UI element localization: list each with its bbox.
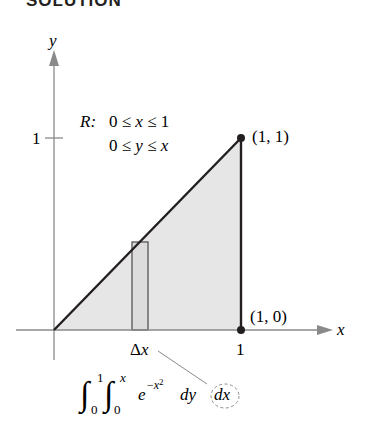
outer-differential: dx	[214, 385, 231, 404]
outer-integral-sign: ∫	[78, 375, 92, 415]
representative-rectangle	[132, 242, 148, 330]
x-axis-arrow-icon	[317, 325, 333, 335]
x-tick-label: 1	[236, 340, 245, 359]
leader-line	[158, 351, 207, 384]
point-label-1-0: (1, 0)	[250, 307, 287, 326]
inner-differential: dy	[180, 385, 197, 404]
region-graph: y x 1 1 R: 0 ≤ x ≤ 1 0 ≤ y ≤ x (1, 1) (1…	[0, 0, 367, 429]
integral-expression: ∫ 1 0 ∫ x 0 e −x2 dy dx	[78, 370, 231, 417]
point-label-1-1: (1, 1)	[252, 127, 289, 146]
outer-lower-limit: 0	[91, 402, 98, 417]
integrand-base: e	[138, 385, 146, 404]
y-axis-arrow-icon	[49, 50, 59, 66]
region-label: R:	[79, 112, 96, 131]
y-tick-label: 1	[32, 129, 41, 148]
inner-lower-limit: 0	[114, 402, 121, 417]
x-axis-label: x	[336, 320, 345, 339]
inner-upper-limit: x	[119, 370, 126, 385]
y-axis-label: y	[47, 31, 57, 50]
integrand-exponent: −x2	[147, 377, 164, 392]
point-1-0	[237, 326, 245, 334]
region-bound-y: 0 ≤ y ≤ x	[109, 136, 169, 155]
delta-x-label: Δx	[130, 340, 149, 359]
outer-upper-limit: 1	[97, 370, 104, 385]
region-bound-x: 0 ≤ x ≤ 1	[109, 112, 169, 131]
point-1-1	[237, 134, 245, 142]
